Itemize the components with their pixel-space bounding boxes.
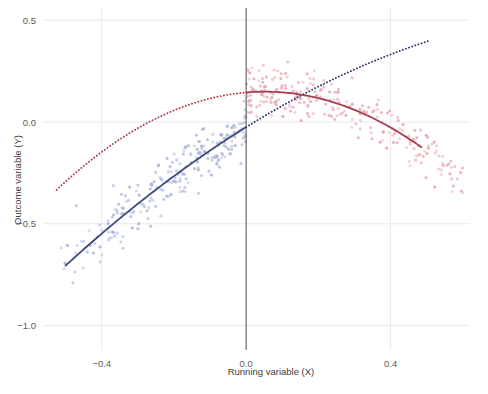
scatter-point-treatment (307, 115, 310, 118)
scatter-point-treatment (461, 167, 464, 170)
scatter-point-control (60, 246, 63, 249)
scatter-point-control (114, 208, 117, 211)
scatter-point-treatment (448, 172, 451, 175)
scatter-point-control (175, 158, 178, 161)
scatter-point-control (181, 172, 184, 175)
scatter-point-control (220, 152, 223, 155)
scatter-point-control (88, 229, 91, 232)
scatter-point-control (181, 190, 184, 193)
scatter-point-treatment (259, 85, 262, 88)
scatter-point-treatment (345, 100, 348, 103)
scatter-point-treatment (327, 114, 330, 117)
scatter-point-treatment (337, 88, 340, 91)
scatter-point-treatment (284, 72, 287, 75)
scatter-point-treatment (284, 87, 287, 90)
scatter-point-control (98, 223, 101, 226)
scatter-point-control (159, 214, 162, 217)
scatter-point-treatment (319, 89, 322, 92)
scatter-point-control (185, 177, 188, 180)
scatter-point-treatment (289, 110, 292, 113)
scatter-point-control (135, 189, 138, 192)
y-tick-label: 0.0 (23, 117, 36, 128)
scatter-point-treatment (359, 108, 362, 111)
scatter-point-treatment (336, 98, 339, 101)
scatter-point-treatment (276, 69, 279, 72)
scatter-point-control (240, 143, 243, 146)
scatter-point-treatment (275, 88, 278, 91)
scatter-point-treatment (336, 90, 339, 93)
scatter-point-treatment (365, 111, 368, 114)
scatter-point-treatment (257, 79, 260, 82)
scatter-point-treatment (425, 134, 428, 137)
scatter-point-treatment (259, 100, 262, 103)
scatter-point-control (154, 205, 157, 208)
scatter-point-treatment (312, 83, 315, 86)
x-axis-label: Running variable (X) (228, 366, 315, 377)
scatter-point-treatment (388, 109, 391, 112)
scatter-point-treatment (300, 119, 303, 122)
scatter-point-treatment (293, 111, 296, 114)
scatter-point-treatment (298, 101, 301, 104)
scatter-point-treatment (333, 91, 336, 94)
scatter-point-treatment (380, 111, 383, 114)
scatter-point-control (121, 247, 124, 250)
scatter-point-control (129, 215, 132, 218)
scatter-point-control (119, 212, 122, 215)
scatter-point-treatment (430, 143, 433, 146)
x-tick-label: 0.4 (384, 358, 397, 369)
scatter-point-control (206, 157, 209, 160)
scatter-point-treatment (370, 131, 373, 134)
scatter-point-treatment (451, 190, 454, 193)
scatter-point-treatment (418, 153, 421, 156)
scatter-point-control (82, 240, 85, 243)
scatter-point-control (111, 216, 114, 219)
scatter-point-treatment (313, 90, 316, 93)
scatter-point-treatment (408, 160, 411, 163)
scatter-point-control (197, 192, 200, 195)
scatter-point-control (182, 153, 185, 156)
scatter-point-treatment (265, 75, 268, 78)
scatter-point-treatment (269, 101, 272, 104)
scatter-point-treatment (388, 131, 391, 134)
scatter-point-treatment (442, 164, 445, 167)
scatter-point-control (121, 235, 124, 238)
scatter-point-treatment (261, 77, 264, 80)
scatter-point-treatment (427, 147, 430, 150)
scatter-point-control (157, 163, 160, 166)
scatter-point-control (110, 236, 113, 239)
scatter-point-treatment (350, 126, 353, 129)
scatter-point-treatment (255, 105, 258, 108)
scatter-point-treatment (351, 118, 354, 121)
scatter-point-control (107, 219, 110, 222)
scatter-point-treatment (306, 104, 309, 107)
scatter-point-treatment (381, 131, 384, 134)
scatter-point-control (197, 168, 200, 171)
scatter-point-treatment (398, 127, 401, 130)
scatter-point-control (210, 174, 213, 177)
scatter-point-treatment (424, 176, 427, 179)
scatter-point-control (148, 199, 151, 202)
scatter-point-control (196, 148, 199, 151)
scatter-point-treatment (354, 122, 357, 125)
scatter-point-treatment (433, 141, 436, 144)
scatter-point-control (211, 156, 214, 159)
scatter-point-control (172, 180, 175, 183)
scatter-point-treatment (290, 85, 293, 88)
scatter-point-control (71, 281, 74, 284)
scatter-point-control (238, 122, 241, 125)
scatter-point-control (182, 149, 185, 152)
scatter-point-treatment (344, 114, 347, 117)
scatter-point-control (162, 198, 165, 201)
scatter-point-treatment (258, 69, 261, 72)
scatter-point-control (120, 193, 123, 196)
scatter-point-treatment (291, 106, 294, 109)
scatter-point-control (230, 148, 233, 151)
scatter-point-control (186, 181, 189, 184)
scatter-point-treatment (450, 166, 453, 169)
scatter-point-control (200, 174, 203, 177)
scatter-point-control (138, 193, 141, 196)
scatter-point-control (112, 231, 115, 234)
scatter-point-treatment (273, 76, 276, 79)
scatter-point-treatment (370, 137, 373, 140)
scatter-point-treatment (260, 93, 263, 96)
